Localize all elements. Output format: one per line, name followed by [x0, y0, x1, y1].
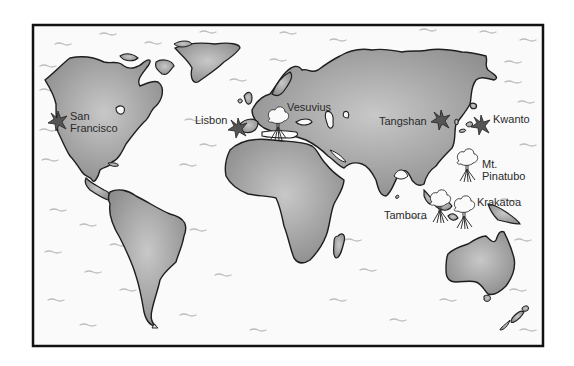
label-tangshan: Tangshan: [379, 115, 427, 127]
label-lisbon: Lisbon: [195, 114, 227, 126]
world-map: [0, 0, 574, 366]
label-san-francisco: San Francisco: [70, 110, 118, 134]
label-vesuvius: Vesuvius: [287, 101, 331, 113]
label-krakatoa: Krakatoa: [477, 196, 521, 208]
label-mt-pinatubo: Mt. Pinatubo: [482, 158, 525, 182]
label-kwanto: Kwanto: [493, 113, 530, 125]
label-tambora: Tambora: [384, 209, 427, 221]
